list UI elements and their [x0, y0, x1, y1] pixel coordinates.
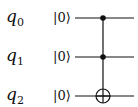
circuit-wires [0, 0, 138, 107]
control-dot-q1 [100, 54, 106, 60]
control-dot-q0 [100, 15, 106, 21]
quantum-circuit-diagram: q0 q1 q2 |0⟩ |0⟩ |0⟩ [0, 0, 138, 107]
